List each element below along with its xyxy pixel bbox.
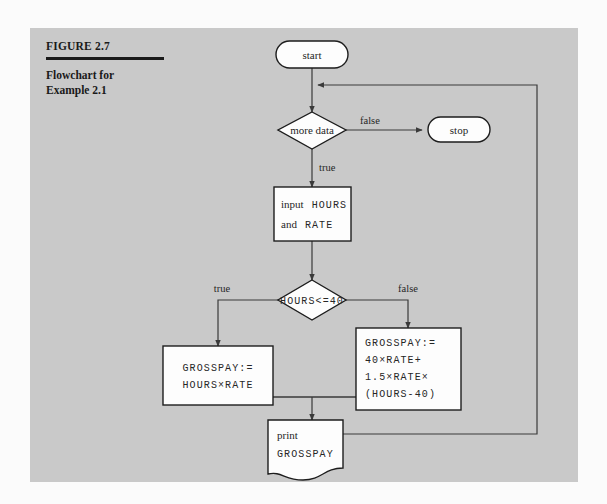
figure-page: FIGURE 2.7 Flowchart for Example 2.1 [0,0,607,504]
edge-hours-test-to-overtime-pay [346,300,408,328]
node-regular-pay-line-1: GROSSPAY:= [182,363,253,374]
node-input[interactable] [274,187,351,241]
node-overtime-pay-line-2: 40×RATE+ [365,355,422,366]
node-start-label: start [303,49,322,61]
node-more-data-label: more data [290,124,334,136]
edge-label-false-top: false [360,115,380,126]
node-overtime-pay-line-3: 1.5×RATE× [365,372,429,383]
node-hours-test-label: HOURS<=40 [280,296,344,307]
node-print-line-1: print [277,429,298,441]
node-print-line-2: GROSSPAY [277,449,334,460]
edge-label-true-mid: true [214,283,231,294]
node-regular-pay[interactable] [163,346,273,405]
edge-hours-test-to-regular-pay [218,300,278,346]
node-input-word-1: input [281,198,304,210]
node-stop-label: stop [450,124,469,136]
node-regular-pay-line-2: HOURS×RATE [182,380,253,391]
node-input-mono-2: RATE [305,220,333,231]
node-overtime-pay-line-1: GROSSPAY:= [365,338,436,349]
edge-label-true-top: true [319,162,336,173]
flowchart-canvas: false true true false start more data st… [30,28,578,482]
node-overtime-pay-line-4: (HOURS-40) [365,389,436,400]
node-input-word-2: and [281,218,297,230]
node-input-mono-1: HOURS [312,200,348,211]
edge-label-false-mid: false [398,283,418,294]
